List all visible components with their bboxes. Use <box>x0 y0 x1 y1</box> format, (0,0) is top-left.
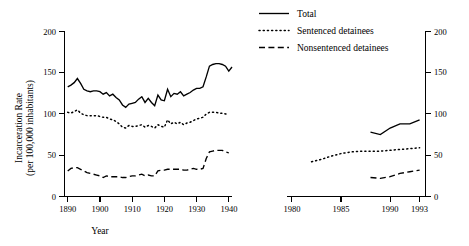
y2-ticklabel-50: 50 <box>434 150 443 160</box>
panel-historical: 0 50 100 150 200 1890 1900 1910 1920 193… <box>43 27 237 237</box>
x-ticklabel-1900: 1900 <box>92 204 109 214</box>
panel-modern: 0 50 100 150 200 1980 1985 1990 1993 <box>283 27 446 215</box>
y-ticklabel-200: 200 <box>43 27 56 37</box>
y-ticklabel-50: 50 <box>48 150 57 160</box>
legend-label-total: Total <box>297 9 317 19</box>
left-panel-y-ticklabels: 0 50 100 150 200 <box>43 27 56 202</box>
series-line-sentenced-modern <box>312 148 420 162</box>
series-line-nonsentenced-modern <box>370 170 419 178</box>
x-ticklabel-1890: 1890 <box>59 204 76 214</box>
x2-ticklabel-1980: 1980 <box>283 204 300 214</box>
y-ticklabel-100: 100 <box>43 109 56 119</box>
right-panel-x-ticklabels: 1980 1985 1990 1993 <box>283 204 428 214</box>
left-panel-y-ticks <box>59 32 65 197</box>
series-line-nonsentenced-historical <box>68 150 229 177</box>
x-ticklabel-1930: 1930 <box>188 204 205 214</box>
series-line-sentenced-historical <box>68 110 229 128</box>
legend-label-nonsentenced: Nonsentenced detainees <box>297 43 389 53</box>
y-ticklabel-0: 0 <box>52 192 56 202</box>
y-axis-title-line2: (per 100,000 inhabitants) <box>25 80 36 176</box>
y-ticklabel-150: 150 <box>43 67 56 77</box>
chart-legend: Total Sentenced detainees Nonsentenced d… <box>259 9 389 53</box>
x2-ticklabel-1990: 1990 <box>382 204 399 214</box>
x-ticklabel-1940: 1940 <box>220 204 237 214</box>
chart-figure: Total Sentenced detainees Nonsentenced d… <box>0 0 469 246</box>
legend-label-sentenced: Sentenced detainees <box>297 26 374 36</box>
legend-item-nonsentenced: Nonsentenced detainees <box>259 43 389 53</box>
series-line-total-modern <box>370 120 419 135</box>
y-axis-title-line1: Incarceration Rate <box>14 93 24 163</box>
series-line-total-historical <box>68 64 232 108</box>
x-ticklabel-1910: 1910 <box>124 204 141 214</box>
legend-item-sentenced: Sentenced detainees <box>259 26 374 36</box>
left-panel-x-ticks <box>68 197 229 203</box>
x2-ticklabel-1993: 1993 <box>411 204 428 214</box>
incarceration-rate-chart: Total Sentenced detainees Nonsentenced d… <box>0 0 469 246</box>
legend-item-total: Total <box>259 9 317 19</box>
y2-ticklabel-150: 150 <box>434 67 447 77</box>
x-ticklabel-1920: 1920 <box>156 204 173 214</box>
left-panel-x-ticklabels: 1890 1900 1910 1920 1930 1940 <box>59 204 237 214</box>
y2-ticklabel-100: 100 <box>434 109 447 119</box>
y2-ticklabel-0: 0 <box>434 192 438 202</box>
y2-ticklabel-200: 200 <box>434 27 447 37</box>
right-panel-x-ticks <box>292 197 420 203</box>
right-panel-y-ticks <box>426 32 432 197</box>
right-panel-y-ticklabels: 0 50 100 150 200 <box>434 27 447 202</box>
x2-ticklabel-1985: 1985 <box>333 204 350 214</box>
y-axis-title: Incarceration Rate (per 100,000 inhabita… <box>14 80 36 176</box>
x-axis-title: Year <box>91 226 109 236</box>
